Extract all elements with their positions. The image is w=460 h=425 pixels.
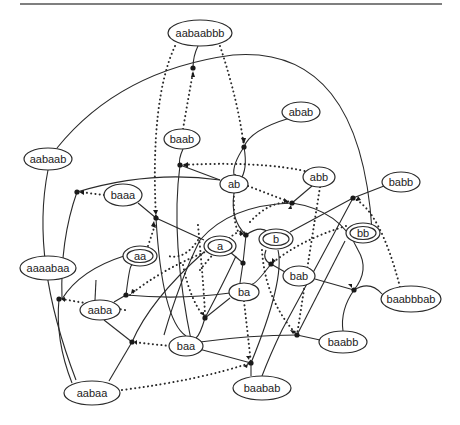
node-label: aaaabaa <box>27 262 71 274</box>
node-label: baa <box>177 340 196 352</box>
node-baab[interactable]: baab <box>164 129 200 149</box>
arrowhead-icon <box>246 356 250 360</box>
node-label: aabaab <box>30 153 67 165</box>
arrowhead-icon <box>348 284 352 288</box>
node-label: bab <box>290 270 308 282</box>
node-baabbbab[interactable]: baabbbab <box>381 286 441 312</box>
nodes: aabaabbbababbaabaabaabababbbabbbaaaabbba… <box>20 20 441 405</box>
node-label: baaa <box>111 189 136 201</box>
node-label: baabb <box>328 336 359 348</box>
junction-dot <box>289 200 294 205</box>
junction-dot <box>243 232 248 237</box>
arrowhead-icon <box>151 221 156 228</box>
node-aaba[interactable]: aaba <box>80 300 120 320</box>
node-aaaabaa[interactable]: aaaabaa <box>20 256 76 280</box>
junction-dot <box>240 260 245 265</box>
arrowhead-icon <box>191 71 195 77</box>
junction-dot <box>123 292 128 297</box>
node-label: babb <box>389 176 413 188</box>
node-ba[interactable]: ba <box>229 283 259 301</box>
arrowhead-icon <box>288 205 292 209</box>
junction-dot <box>153 215 158 220</box>
node-baabb[interactable]: baabb <box>319 331 367 353</box>
node-a[interactable]: a <box>204 236 236 256</box>
node-ab[interactable]: ab <box>220 175 248 193</box>
node-babb[interactable]: babb <box>382 172 420 192</box>
node-b[interactable]: b <box>259 229 293 249</box>
node-abb[interactable]: abb <box>303 167 335 187</box>
node-baa[interactable]: baa <box>169 336 203 356</box>
node-label: ab <box>228 178 240 190</box>
node-baabab[interactable]: baabab <box>233 376 291 400</box>
node-label: baabab <box>244 382 281 394</box>
junction-dot <box>129 339 134 344</box>
node-label: bb <box>357 227 369 239</box>
junction-dot <box>248 360 253 365</box>
node-bb[interactable]: bb <box>346 223 380 243</box>
node-label: a <box>217 240 224 252</box>
node-baaa[interactable]: baaa <box>104 184 142 206</box>
junction-dot <box>202 315 207 320</box>
node-label: aaba <box>88 304 113 316</box>
junction-dot <box>74 189 79 194</box>
automaton-diagram: aabaabbbababbaabaabaabababbbabbbaaaabbba… <box>0 0 460 425</box>
node-label: aabaa <box>77 387 108 399</box>
node-aabaabbb[interactable]: aabaabbb <box>168 20 232 46</box>
node-label: aabaabbb <box>176 27 225 39</box>
node-label: aa <box>134 250 147 262</box>
node-label: ba <box>238 286 251 298</box>
junction-dot <box>177 162 182 167</box>
node-label: baabbbab <box>387 293 436 305</box>
junction-dot <box>351 287 356 292</box>
node-aabaa[interactable]: aabaa <box>64 381 120 405</box>
node-label: baab <box>170 133 194 145</box>
node-label: abab <box>289 106 313 118</box>
junction-dot <box>190 65 195 70</box>
node-label: abb <box>310 171 328 183</box>
node-aabaab[interactable]: aabaab <box>24 148 72 170</box>
junction-dot <box>294 332 299 337</box>
junction-dot <box>241 144 246 149</box>
junction-dot <box>56 296 61 301</box>
node-abab[interactable]: abab <box>282 102 320 122</box>
node-label: b <box>273 233 279 245</box>
arrowhead-icon <box>153 210 158 215</box>
junction-dot <box>350 195 355 200</box>
node-bab[interactable]: bab <box>283 266 315 286</box>
node-aa[interactable]: aa <box>123 246 157 266</box>
